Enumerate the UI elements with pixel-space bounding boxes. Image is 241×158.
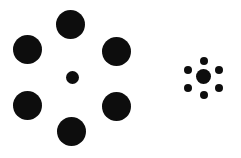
illusion-canvas xyxy=(0,0,241,158)
circle-r-lower-left xyxy=(184,84,192,92)
circle-r-bottom xyxy=(200,91,208,99)
right-cluster xyxy=(0,0,241,158)
circle-r-center xyxy=(196,69,211,84)
circle-r-upper-left xyxy=(184,66,192,74)
circle-r-top xyxy=(200,57,208,65)
circle-r-upper-right xyxy=(215,66,223,74)
circle-r-lower-right xyxy=(215,84,223,92)
